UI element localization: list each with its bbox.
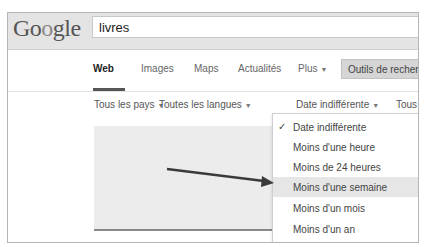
annotation-arrow-icon — [0, 0, 425, 247]
